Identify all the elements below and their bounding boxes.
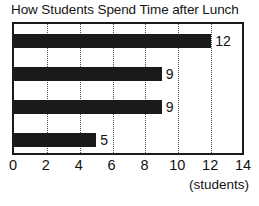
bar-value-label: 12 bbox=[211, 34, 231, 48]
plot-area: 12995 bbox=[12, 22, 244, 155]
x-tick-label-2: 2 bbox=[42, 156, 50, 174]
plot-inner: 12995 bbox=[14, 24, 242, 153]
bar bbox=[14, 100, 162, 114]
x-tick-label-0: 0 bbox=[9, 156, 17, 174]
bar-chart: How Students Spend Time after Lunch 1299… bbox=[0, 0, 259, 206]
bar bbox=[14, 67, 162, 81]
x-tick-label-14: 14 bbox=[235, 156, 251, 174]
bar-value-label: 9 bbox=[162, 100, 174, 114]
bar bbox=[14, 133, 96, 147]
bar bbox=[14, 34, 211, 48]
bar-row: 5 bbox=[14, 133, 244, 147]
x-tick-label-12: 12 bbox=[202, 156, 218, 174]
bar-row: 9 bbox=[14, 67, 244, 81]
chart-title: How Students Spend Time after Lunch bbox=[11, 1, 239, 18]
bar-value-label: 5 bbox=[96, 133, 108, 147]
x-tick-label-4: 4 bbox=[75, 156, 83, 174]
bar-row: 9 bbox=[14, 100, 244, 114]
x-axis-unit-label: (students) bbox=[189, 176, 249, 193]
bar-row: 12 bbox=[14, 34, 244, 48]
x-tick-label-8: 8 bbox=[140, 156, 148, 174]
x-axis-tick-labels: 02468101214 bbox=[12, 156, 244, 176]
x-tick-label-6: 6 bbox=[108, 156, 116, 174]
x-tick-label-10: 10 bbox=[169, 156, 185, 174]
bar-value-label: 9 bbox=[162, 67, 174, 81]
